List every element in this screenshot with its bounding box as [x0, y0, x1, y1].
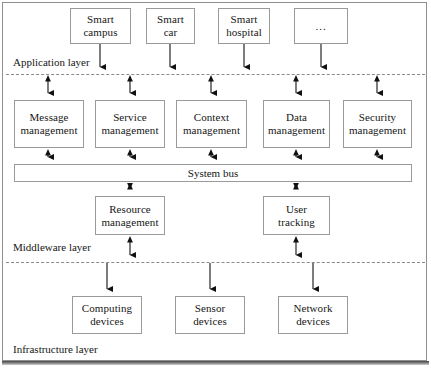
node-more-applications[interactable]: ...	[294, 8, 348, 44]
node-security-management[interactable]: Security management	[343, 100, 412, 148]
label-infrastructure-layer: Infrastructure layer	[13, 343, 98, 356]
node-security-management-line1: Security	[359, 111, 396, 124]
system-bus[interactable]: System bus	[14, 164, 412, 182]
node-computing-devices-line1: Computing	[82, 302, 132, 315]
node-sensor-devices-line2: devices	[193, 315, 227, 328]
node-smart-car-line2: car	[164, 26, 178, 39]
architecture-diagram: Smart campus Smart car Smart hospital ..…	[0, 0, 431, 373]
node-computing-devices[interactable]: Computing devices	[72, 296, 142, 334]
node-smart-hospital-line2: hospital	[226, 26, 262, 39]
node-service-management-line2: management	[101, 124, 158, 137]
node-smart-campus[interactable]: Smart campus	[70, 8, 131, 44]
node-user-tracking[interactable]: User tracking	[263, 196, 330, 235]
diagram-bottom-edge	[2, 361, 429, 365]
node-data-management-line1: Data	[286, 111, 307, 124]
application-middleware-divider	[6, 74, 425, 75]
node-network-devices-line2: devices	[296, 315, 330, 328]
node-resource-management-line1: Resource	[109, 203, 151, 216]
node-network-devices[interactable]: Network devices	[278, 296, 348, 334]
node-message-management-line2: management	[20, 124, 77, 137]
node-sensor-devices[interactable]: Sensor devices	[175, 296, 245, 334]
node-service-management-line1: Service	[113, 111, 147, 124]
node-data-management[interactable]: Data management	[263, 100, 330, 148]
node-security-management-line2: management	[349, 124, 406, 137]
node-user-tracking-line1: User	[286, 203, 307, 216]
node-context-management-line2: management	[183, 124, 240, 137]
node-smart-campus-line2: campus	[83, 26, 117, 39]
node-message-management[interactable]: Message management	[14, 100, 84, 148]
node-smart-hospital[interactable]: Smart hospital	[218, 8, 270, 44]
node-resource-management[interactable]: Resource management	[95, 196, 165, 235]
label-middleware-layer: Middleware layer	[13, 241, 91, 254]
node-context-management-line1: Context	[194, 111, 230, 124]
node-user-tracking-line2: tracking	[278, 216, 315, 229]
node-resource-management-line2: management	[101, 216, 158, 229]
node-smart-campus-line1: Smart	[87, 13, 114, 26]
node-data-management-line2: management	[268, 124, 325, 137]
node-computing-devices-line2: devices	[90, 315, 124, 328]
node-network-devices-line1: Network	[293, 302, 332, 315]
node-sensor-devices-line1: Sensor	[195, 302, 226, 315]
node-smart-car[interactable]: Smart car	[146, 8, 195, 44]
node-more-applications-label: ...	[315, 20, 326, 33]
node-message-management-line1: Message	[29, 111, 68, 124]
node-service-management[interactable]: Service management	[95, 100, 165, 148]
system-bus-label: System bus	[188, 167, 238, 179]
node-smart-car-line1: Smart	[157, 13, 184, 26]
middleware-infrastructure-divider	[6, 262, 425, 263]
node-context-management[interactable]: Context management	[176, 100, 247, 148]
node-smart-hospital-line1: Smart	[231, 13, 258, 26]
label-application-layer: Application layer	[13, 56, 90, 69]
